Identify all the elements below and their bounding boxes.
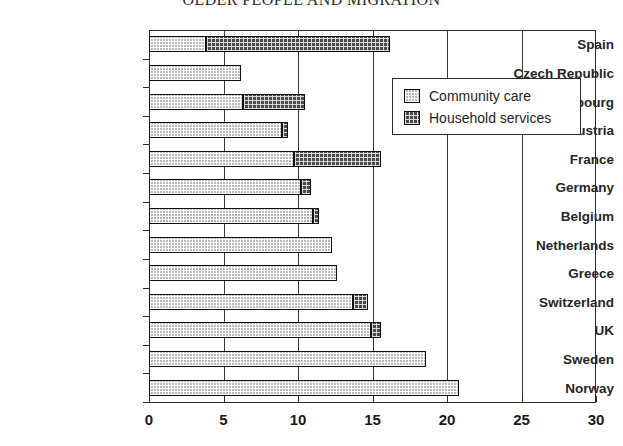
x-tick-10 [298, 396, 299, 402]
x-axis-line [149, 402, 596, 403]
x-tick-label-20: 20 [427, 411, 467, 428]
bar-segment-community-care [149, 94, 243, 110]
x-tick-0 [149, 396, 150, 402]
bar-segment-community-care [149, 294, 353, 310]
dark-speckle-swatch [404, 111, 420, 125]
x-tick-30 [596, 396, 597, 402]
legend-label-household-services: Household services [429, 110, 551, 126]
bar-segment-household-services [301, 179, 311, 195]
bar-segment-household-services [313, 208, 319, 224]
bar-segment-community-care [149, 265, 337, 281]
bar-segment-community-care [149, 322, 371, 338]
bar-segment-community-care [149, 65, 241, 81]
bar-segment-community-care [149, 36, 206, 52]
gridline-15 [373, 30, 374, 402]
x-tick-label-5: 5 [204, 411, 244, 428]
legend-item-community-care: Community care [404, 85, 580, 107]
x-tick-15 [373, 396, 374, 402]
legend-item-household-services: Household services [404, 107, 580, 129]
x-tick-20 [447, 396, 448, 402]
chart-legend: Community care Household services [392, 78, 581, 135]
x-tick-label-15: 15 [353, 411, 393, 428]
bar-segment-household-services [282, 122, 288, 138]
bar-segment-community-care [149, 122, 282, 138]
bar-segment-community-care [149, 179, 301, 195]
x-tick-25 [522, 396, 523, 402]
bar-segment-household-services [243, 94, 306, 110]
x-tick-label-10: 10 [278, 411, 318, 428]
bar-segment-household-services [294, 151, 382, 167]
bar-segment-community-care [149, 380, 459, 396]
x-tick-label-25: 25 [502, 411, 542, 428]
bar-segment-community-care [149, 351, 426, 367]
bar-segment-community-care [149, 208, 313, 224]
bar-segment-household-services [371, 322, 381, 338]
bar-segment-community-care [149, 151, 294, 167]
legend-label-community-care: Community care [429, 88, 531, 104]
x-tick-label-0: 0 [129, 411, 169, 428]
bar-segment-household-services [206, 36, 391, 52]
bar-segment-household-services [353, 294, 368, 310]
x-tick-label-30: 30 [576, 411, 616, 428]
light-checker-swatch [404, 89, 420, 103]
chart-title: OLDER PEOPLE AND MIGRATION [0, 0, 623, 9]
x-tick-5 [224, 396, 225, 402]
bar-segment-community-care [149, 237, 332, 253]
